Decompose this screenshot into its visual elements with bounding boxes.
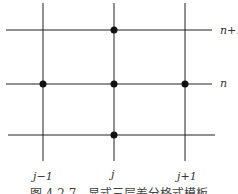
node-j-n-plus-1 [111, 27, 118, 34]
col-label-j-plus-1: j+1 [177, 170, 197, 183]
node-j-minus-1-n [40, 81, 47, 88]
col-label-j-minus-1: j−1 [33, 170, 53, 183]
col-label-j: j [111, 168, 114, 181]
row-label-n: n [220, 77, 227, 90]
node-j-n-minus-1 [111, 132, 118, 139]
node-j-plus-1-n [182, 81, 189, 88]
node-j-n [111, 81, 118, 88]
stencil-grid [0, 0, 238, 194]
row-label-n-plus-1: n+1 [220, 24, 238, 37]
figure-caption: 图 4.2.7 显式三层差分格式模板 [30, 184, 208, 194]
